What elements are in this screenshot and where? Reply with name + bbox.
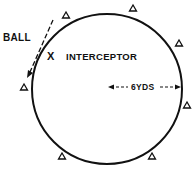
ball-path-line — [30, 20, 53, 72]
triangle-icon — [184, 102, 191, 108]
diagram-canvas — [0, 0, 193, 170]
radius-arrow-left-icon — [108, 85, 114, 90]
radius-arrow-right-icon — [175, 85, 181, 90]
interceptor-label: INTERCEPTOR — [66, 51, 137, 62]
triangle-icon — [130, 5, 137, 11]
triangle-icon — [176, 40, 183, 46]
triangle-icon — [59, 153, 66, 159]
playing-circle — [32, 14, 182, 164]
triangle-icon — [149, 153, 156, 159]
ball-label: BALL — [3, 32, 31, 43]
triangle-icon — [21, 84, 28, 90]
triangle-icon — [63, 12, 70, 18]
interceptor-mark: X — [47, 50, 55, 62]
radius-label: 6YDS — [131, 82, 154, 92]
